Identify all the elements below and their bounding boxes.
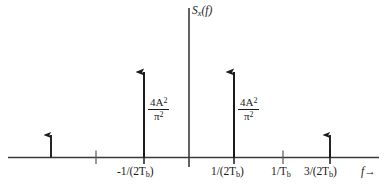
tick-label-pos-half: 1/(2Tb) [211,166,244,179]
amplitude-right-numerator: 4A2 [238,96,259,110]
spectrum-figure: Sx(f) 4A2 π2 4A2 π2 -1/(2Tb) 1/(2Tb) 1/T… [0,0,387,184]
tick-label-three-half: 3/(2Tb) [304,166,337,179]
tick-label-neg-half: -1/(2Tb) [117,166,154,179]
amplitude-left-denominator: π2 [148,110,169,123]
amplitude-annotation-left: 4A2 π2 [148,96,169,124]
y-axis-label-argument: (f) [201,4,212,16]
figure-canvas [0,0,387,184]
x-axis-label: f→ [361,166,376,178]
y-axis-label: Sx(f) [192,5,212,18]
tick-label-one-over-tb: 1/Tb [271,166,291,179]
amplitude-annotation-right: 4A2 π2 [238,96,259,124]
amplitude-left-numerator: 4A2 [148,96,169,110]
amplitude-right-denominator: π2 [238,110,259,123]
